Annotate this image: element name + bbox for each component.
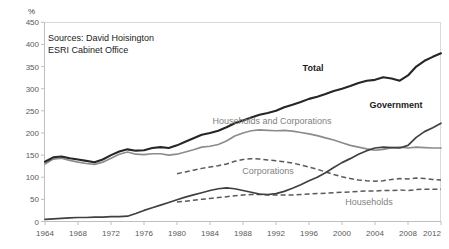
y-tick-label: 0 (35, 218, 40, 227)
chart-container: % 0 50 100 150 200 250 300 350 400 (0, 0, 449, 249)
sources-line-1: Sources: David Hoisington (48, 33, 154, 43)
y-axis-unit-label: % (28, 7, 35, 16)
series-line-corporations (177, 159, 441, 182)
annotation-total: Total (303, 63, 324, 73)
y-tick-label: 150 (26, 151, 40, 160)
annotation-households-and-corporations: Households and Corporations (212, 116, 332, 126)
y-tick-label: 100 (26, 173, 40, 182)
x-tick-label: 1984 (201, 229, 219, 238)
x-tick-label: 1996 (300, 229, 318, 238)
line-chart-svg: % 0 50 100 150 200 250 300 350 400 (0, 0, 449, 249)
x-tick-label: 1980 (168, 229, 186, 238)
x-tick-label: 2000 (333, 229, 351, 238)
x-tick-label: 1972 (102, 229, 120, 238)
x-tick-label: 1988 (234, 229, 252, 238)
sources-line-2: ESRI Cabinet Office (48, 45, 128, 55)
x-tick-label: 1964 (36, 229, 54, 238)
y-tick-label: 450 (26, 18, 40, 27)
y-tick-label: 50 (30, 195, 39, 204)
x-tick-label: 1992 (267, 229, 285, 238)
annotation-corporations: Corporations (242, 166, 294, 176)
annotation-government: Government (369, 100, 422, 110)
series-line-households (177, 189, 441, 202)
x-tick-label: 1968 (69, 229, 87, 238)
x-tick-label: 2004 (366, 229, 384, 238)
y-tick-label: 400 (26, 40, 40, 49)
y-tick-label: 250 (26, 107, 40, 116)
x-tick-label: 1976 (135, 229, 153, 238)
x-tick-label: 2008 (399, 229, 417, 238)
y-tick-label: 300 (26, 85, 40, 94)
y-axis-ticks: 0 50 100 150 200 250 300 350 400 450 (26, 18, 45, 226)
y-tick-label: 200 (26, 129, 40, 138)
x-tick-label: 2012 (423, 229, 441, 238)
x-axis-ticks: 1964 1968 1972 1976 1980 1984 1988 1992 … (36, 222, 441, 239)
y-tick-label: 350 (26, 63, 40, 72)
annotation-households: Households (345, 197, 393, 207)
